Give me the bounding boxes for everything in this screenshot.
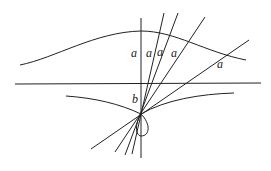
- horizontal-line: [15, 83, 261, 84]
- diagram-canvas: a a a a a b: [0, 0, 271, 171]
- label-a1: a: [131, 46, 137, 60]
- label-a4: a: [171, 46, 177, 60]
- label-b: b: [132, 92, 138, 106]
- ray-4: [115, 17, 205, 152]
- ray-5: [91, 40, 249, 149]
- label-a5: a: [217, 57, 223, 71]
- lower-curve-left: [66, 96, 141, 114]
- label-a2: a: [146, 46, 152, 60]
- lower-curve-right: [141, 93, 234, 114]
- label-a3: a: [157, 45, 163, 59]
